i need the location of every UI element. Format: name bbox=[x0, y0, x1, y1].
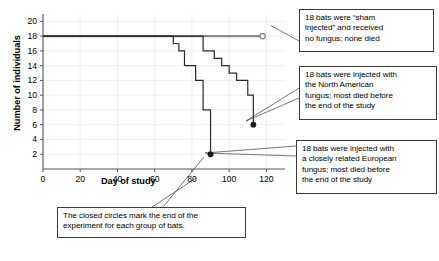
x-tick-120: 120 bbox=[256, 174, 276, 184]
y-tick-12: 12 bbox=[21, 75, 37, 85]
y-axis-title: Number of individuals bbox=[12, 22, 22, 145]
x-axis-title: Day of study bbox=[101, 176, 156, 186]
callout-sham-line-2: injected” and received bbox=[305, 23, 428, 33]
callout-closed-circles: The closed circles mark the end of the e… bbox=[57, 207, 246, 238]
y-tick-14: 14 bbox=[21, 61, 37, 71]
leader-line-3 bbox=[205, 146, 296, 153]
callout-na-line-2: the North American bbox=[305, 80, 431, 90]
y-tick-8: 8 bbox=[21, 105, 37, 115]
callout-eu-line-2: a closely related European bbox=[302, 154, 431, 164]
y-tick-4: 4 bbox=[21, 134, 37, 144]
x-tick-20: 20 bbox=[70, 174, 90, 184]
callout-eu-line-4: the end of the study bbox=[302, 175, 431, 185]
callout-eu-line-3: fungus; most died before bbox=[302, 165, 431, 175]
leader-line-0 bbox=[271, 26, 299, 42]
callout-sham-line-1: 18 bats were “sham bbox=[305, 13, 428, 23]
callout-na-line-3: fungus; most died before bbox=[305, 91, 431, 101]
callout-na-line-1: 18 bats were injected with bbox=[305, 70, 431, 80]
tick-marks bbox=[40, 21, 266, 172]
callout-na-line-4: the end of the study bbox=[305, 101, 431, 111]
chart-figure: 020406080100120 2468101214161820 Day of … bbox=[0, 0, 439, 261]
x-tick-80: 80 bbox=[182, 174, 202, 184]
endpoint-open-circle bbox=[260, 34, 265, 39]
endpoint-closed-circle bbox=[208, 151, 214, 157]
y-tick-18: 18 bbox=[21, 31, 37, 41]
y-tick-16: 16 bbox=[21, 46, 37, 56]
callout-north-american-fungus: 18 bats were injected with the North Ame… bbox=[299, 66, 437, 120]
x-tick-100: 100 bbox=[219, 174, 239, 184]
y-tick-2: 2 bbox=[21, 149, 37, 159]
y-tick-10: 10 bbox=[21, 90, 37, 100]
y-tick-20: 20 bbox=[21, 16, 37, 26]
callout-sham-line-3: no fungus; none died bbox=[305, 34, 428, 44]
y-tick-6: 6 bbox=[21, 120, 37, 130]
callout-eu-line-1: 18 bats were injected with bbox=[302, 144, 431, 154]
callout-circles-line-1: The closed circles mark the end of the bbox=[63, 211, 240, 221]
callout-circles-line-2: experiment for each group of bats. bbox=[63, 221, 240, 231]
callout-european-fungus: 18 bats were injected with a closely rel… bbox=[296, 140, 437, 194]
x-tick-0: 0 bbox=[33, 174, 53, 184]
callout-sham-injected: 18 bats were “sham injected” and receive… bbox=[299, 9, 434, 52]
endpoint-closed-circle bbox=[250, 122, 256, 128]
